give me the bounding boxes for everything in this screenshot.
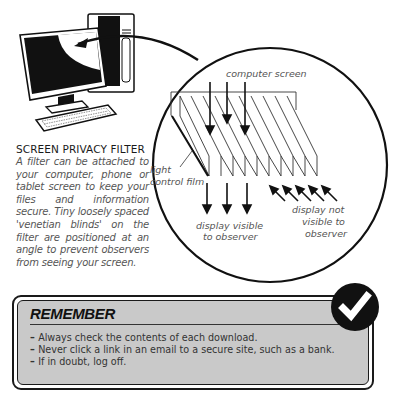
remember-list: Always check the contents of each downlo… bbox=[30, 332, 335, 368]
label-to-observer: to observer bbox=[203, 231, 259, 242]
caption-title: SCREEN PRIVACY FILTER bbox=[16, 143, 145, 155]
magnifier-circle bbox=[153, 48, 387, 282]
remember-box: REMEMBER Always check the contents of ea… bbox=[12, 295, 374, 390]
remember-panel: REMEMBER Always check the contents of ea… bbox=[17, 300, 369, 385]
label-display-visible: display visible bbox=[196, 220, 263, 231]
list-item: Never click a link in an email to a secu… bbox=[30, 344, 335, 356]
label-observer: observer bbox=[305, 228, 348, 239]
label-computer-screen: computer screen bbox=[226, 68, 307, 79]
computer-illustration bbox=[20, 14, 134, 131]
checkmark-badge bbox=[331, 283, 379, 331]
checkmark-icon bbox=[331, 283, 379, 331]
list-item: If in doubt, log off. bbox=[30, 356, 335, 368]
remember-title: REMEMBER bbox=[30, 305, 115, 322]
title-divider bbox=[30, 324, 340, 325]
label-light: light bbox=[150, 164, 172, 175]
label-visible-to: visible to bbox=[302, 216, 345, 227]
caption-body: A filter can be attached to your compute… bbox=[16, 156, 149, 269]
label-control-film: control film bbox=[150, 176, 204, 187]
label-display-not: display not bbox=[292, 204, 346, 215]
list-item: Always check the contents of each downlo… bbox=[30, 332, 335, 344]
